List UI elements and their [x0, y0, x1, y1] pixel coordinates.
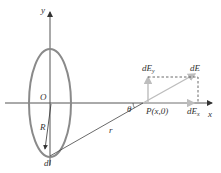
radius-label: R — [39, 122, 46, 132]
y-axis-label: y — [40, 5, 45, 15]
origin-label: O — [40, 92, 47, 102]
ring-field-diagram: y x O R dl r θ P(x,0) dE dEy dEx — [0, 0, 221, 173]
field-y-sub: y — [151, 68, 155, 74]
angle-arc — [133, 103, 135, 108]
element-label: dl — [44, 158, 52, 168]
x-axis-label: x — [207, 109, 212, 119]
distance-label: r — [109, 125, 113, 135]
field-x-label: dEx — [187, 106, 200, 117]
field-label: dE — [190, 63, 201, 73]
dE-vector — [143, 74, 195, 103]
field-y-main: dE — [142, 63, 153, 73]
angle-label: θ — [127, 104, 132, 114]
dashed-projection — [148, 77, 198, 103]
field-x-sub: x — [196, 111, 200, 117]
field-x-main: dE — [187, 106, 198, 116]
point-label: P(x,0) — [145, 106, 168, 116]
field-y-label: dEy — [142, 63, 155, 74]
